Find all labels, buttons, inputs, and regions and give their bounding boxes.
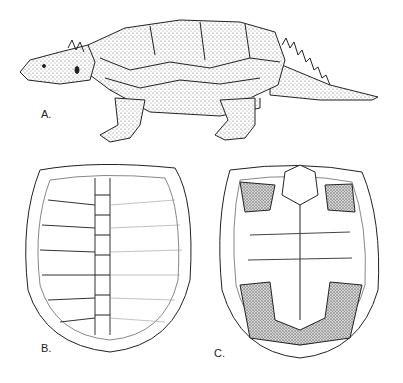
panel-a-turtle [20, 20, 378, 142]
figure-canvas: A. B. C. [0, 0, 403, 383]
panel-label-a: A. [41, 108, 51, 120]
panel-c-plastron [220, 165, 379, 358]
panel-label-b: B. [41, 342, 51, 354]
panel-label-c: C. [214, 347, 225, 359]
panel-b-carapace [26, 164, 191, 352]
